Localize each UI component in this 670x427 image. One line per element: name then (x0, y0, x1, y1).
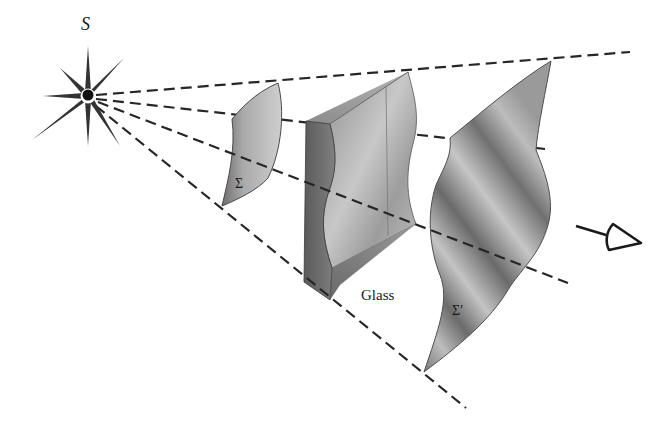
diagram-canvas (0, 0, 670, 427)
source-label: S (81, 14, 90, 35)
wavefront-sigma-prime (424, 61, 551, 372)
sigma-prime-label: Σ′ (452, 303, 463, 319)
eye-icon (576, 224, 641, 250)
glass-slab (304, 72, 416, 300)
source-star-icon (32, 46, 124, 146)
sigma-label: Σ (235, 176, 243, 192)
wavefront-sigma (222, 83, 282, 206)
ray-1 (96, 52, 630, 95)
glass-label: Glass (361, 287, 394, 304)
